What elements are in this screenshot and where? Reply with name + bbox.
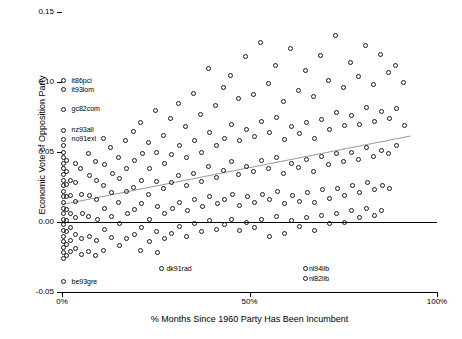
data-point	[312, 228, 317, 233]
data-point	[252, 134, 257, 139]
data-point	[154, 229, 159, 234]
data-point	[169, 180, 174, 185]
data-point	[124, 189, 129, 194]
data-point	[372, 213, 377, 218]
data-point	[378, 52, 383, 57]
data-point	[335, 186, 340, 191]
point-label: nz93all	[72, 126, 94, 133]
point-label: it93lom	[72, 86, 95, 93]
data-point	[102, 162, 107, 167]
data-point	[236, 96, 241, 101]
data-point	[305, 190, 310, 195]
data-point	[282, 201, 287, 206]
data-point	[386, 151, 391, 156]
data-point	[237, 203, 242, 208]
data-point	[101, 136, 106, 141]
data-point	[357, 215, 362, 220]
data-point	[387, 116, 392, 121]
data-point	[61, 279, 66, 284]
data-point	[117, 176, 122, 181]
data-point	[312, 200, 317, 205]
data-point	[349, 113, 354, 118]
data-point	[243, 54, 248, 59]
data-point	[73, 161, 78, 166]
data-point	[207, 194, 212, 199]
data-point	[266, 81, 271, 86]
data-point	[110, 171, 115, 176]
data-point	[372, 119, 377, 124]
data-point	[68, 238, 73, 243]
data-point	[318, 53, 323, 58]
data-point	[169, 152, 174, 157]
data-point	[393, 63, 398, 68]
data-point	[312, 136, 317, 141]
x-tick-label: 100%	[417, 297, 457, 306]
data-point	[132, 232, 137, 237]
data-point	[281, 99, 286, 104]
data-point	[229, 217, 234, 222]
data-point	[244, 164, 249, 169]
y-tick	[57, 82, 62, 83]
point-label: dk91rad	[166, 265, 191, 272]
data-point	[161, 186, 166, 191]
data-point	[102, 227, 107, 232]
data-point	[191, 171, 196, 176]
data-point	[117, 221, 122, 226]
data-point	[341, 159, 346, 164]
data-point	[73, 246, 78, 251]
data-point	[222, 222, 227, 227]
data-point	[199, 150, 204, 155]
data-point	[79, 252, 84, 257]
data-point	[326, 78, 331, 83]
data-point	[297, 224, 302, 229]
data-point	[207, 130, 212, 135]
data-point	[304, 120, 309, 125]
data-point	[379, 109, 384, 114]
point-label: no91exl	[72, 135, 97, 142]
data-point	[333, 33, 338, 38]
data-point	[230, 192, 235, 197]
data-point	[199, 229, 204, 234]
data-point	[184, 183, 189, 188]
data-point	[274, 115, 279, 120]
data-point	[288, 46, 293, 51]
data-point	[86, 249, 91, 254]
data-point	[206, 66, 211, 71]
data-point	[282, 231, 287, 236]
data-point	[259, 119, 264, 124]
data-point	[365, 180, 370, 185]
data-point	[371, 154, 376, 159]
data-point	[94, 197, 99, 202]
x-tick-label: 50%	[230, 297, 270, 306]
y-tick	[57, 12, 62, 13]
data-point	[350, 183, 355, 188]
data-point	[275, 189, 280, 194]
data-point	[79, 192, 84, 197]
data-point	[79, 236, 84, 241]
data-point	[244, 127, 249, 132]
data-point	[169, 231, 174, 236]
data-point	[68, 193, 73, 198]
data-point	[334, 110, 339, 115]
point-label: nl94lib	[309, 265, 329, 272]
data-point	[372, 187, 377, 192]
data-point	[61, 87, 66, 92]
data-point	[146, 140, 151, 145]
data-point	[73, 232, 78, 237]
data-point	[61, 128, 66, 133]
data-point	[101, 183, 106, 188]
data-point	[213, 103, 218, 108]
data-point	[364, 105, 369, 110]
data-point	[303, 68, 308, 73]
data-point	[170, 206, 175, 211]
data-point	[303, 266, 308, 271]
point-label: it86pci	[72, 77, 92, 84]
data-point	[185, 208, 190, 213]
data-point	[214, 143, 219, 148]
data-point	[296, 88, 301, 93]
data-point	[139, 201, 144, 206]
data-point	[267, 130, 272, 135]
data-point	[215, 201, 220, 206]
data-point	[199, 179, 204, 184]
data-point	[228, 73, 233, 78]
